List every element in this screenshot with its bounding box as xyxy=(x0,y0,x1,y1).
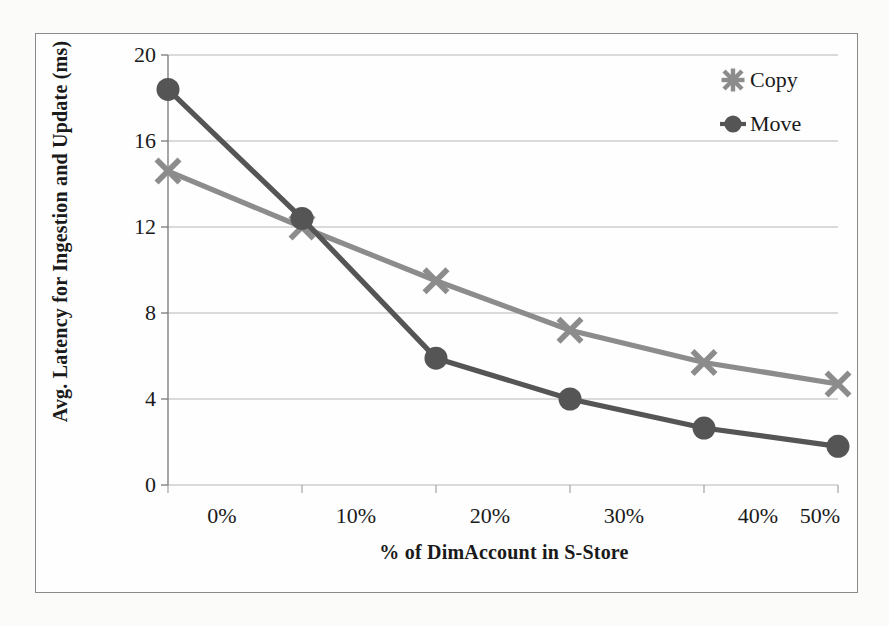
legend-label-copy: Copy xyxy=(750,69,798,91)
legend-item-move[interactable]: Move xyxy=(718,102,838,146)
chart-plot-area: Avg. Latency for Ingestion and Update (m… xyxy=(0,0,889,626)
x-axis-title: % of DimAccount in S-Store xyxy=(168,541,840,564)
circle-icon xyxy=(718,109,748,139)
y-tick-label-12: 12 xyxy=(110,216,156,238)
x-tick-label-20: 20% xyxy=(450,505,530,527)
legend-label-move: Move xyxy=(750,113,801,135)
legend: Copy Move xyxy=(718,58,838,146)
x-tick-label-50: 50% xyxy=(760,505,880,527)
y-tick-label-20: 20 xyxy=(110,44,156,66)
x-tick-label-0: 0% xyxy=(182,505,262,527)
y-tick-label-0: 0 xyxy=(110,474,156,496)
y-tick-label-8: 8 xyxy=(110,302,156,324)
y-axis-title: Avg. Latency for Ingestion and Update (m… xyxy=(49,22,72,442)
y-tick-label-4: 4 xyxy=(110,388,156,410)
x-tick-label-10: 10% xyxy=(316,505,396,527)
x-cross-icon xyxy=(718,65,748,95)
y-tick-label-16: 16 xyxy=(110,130,156,152)
x-tick-label-30: 30% xyxy=(584,505,664,527)
legend-item-copy[interactable]: Copy xyxy=(718,58,838,102)
